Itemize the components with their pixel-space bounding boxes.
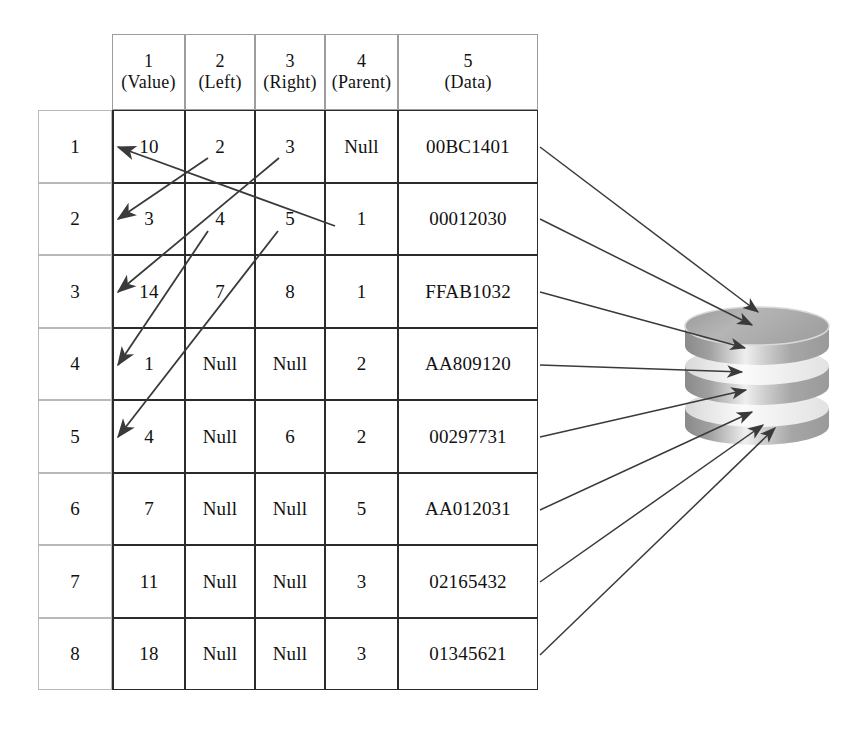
cell-text: AA012031: [425, 498, 511, 520]
row-index-label: 8: [70, 643, 80, 665]
cell-text: Null: [203, 643, 238, 665]
cell-parent: Null: [325, 110, 398, 183]
row-index-label: 4: [70, 353, 80, 375]
cell-right: Null: [255, 545, 325, 618]
row-index-label: 1: [70, 136, 80, 158]
cell-left: Null: [185, 473, 255, 545]
row-index-label: 7: [70, 571, 80, 593]
cell-right: Null: [255, 618, 325, 690]
cell-parent: 2: [325, 400, 398, 473]
cell-left: Null: [185, 545, 255, 618]
cell-text: 7: [215, 281, 225, 303]
cell-text: 10: [139, 136, 158, 158]
cell-text: 3: [357, 643, 367, 665]
column-header-1: 1 (Value): [112, 34, 185, 110]
row-index: 8: [38, 618, 112, 690]
column-header-3: 3 (Right): [255, 34, 325, 110]
cell-text: 1: [357, 208, 367, 230]
cell-text: 2: [357, 353, 367, 375]
cell-data: 00297731: [398, 400, 538, 473]
cell-text: 3: [285, 136, 295, 158]
cell-parent: 3: [325, 545, 398, 618]
cell-text: 1: [144, 353, 154, 375]
cell-text: Null: [203, 353, 238, 375]
column-header-number: 2: [215, 51, 224, 72]
row-index: 2: [38, 183, 112, 255]
cell-text: 01345621: [429, 643, 507, 665]
cell-text: Null: [203, 498, 238, 520]
cell-text: 3: [357, 571, 367, 593]
cell-left: 4: [185, 183, 255, 255]
cell-text: 3: [144, 208, 154, 230]
column-header-2: 2 (Left): [185, 34, 255, 110]
cell-text: 7: [144, 498, 154, 520]
column-header-name: (Data): [444, 72, 491, 93]
column-header-4: 4 (Parent): [325, 34, 398, 110]
cell-right: 6: [255, 400, 325, 473]
cell-text: 00BC1401: [426, 136, 510, 158]
column-header-name: (Left): [198, 72, 241, 93]
cell-text: Null: [344, 136, 379, 158]
database-cylinder-icon: [683, 306, 831, 446]
row-index: 3: [38, 255, 112, 328]
column-header-number: 1: [144, 51, 153, 72]
cell-text: 2: [357, 426, 367, 448]
cell-value: 14: [112, 255, 185, 328]
cell-value: 11: [112, 545, 185, 618]
row-index: 7: [38, 545, 112, 618]
cell-text: 00012030: [429, 208, 507, 230]
cell-text: 00297731: [429, 426, 507, 448]
cell-right: 3: [255, 110, 325, 183]
cell-value: 4: [112, 400, 185, 473]
row-index-label: 5: [70, 426, 80, 448]
row-index: 6: [38, 473, 112, 545]
cell-text: Null: [203, 426, 238, 448]
storage-arrow-row-8: [540, 428, 775, 655]
cell-text: 8: [285, 281, 295, 303]
cell-text: 5: [285, 208, 295, 230]
cell-text: 02165432: [429, 571, 507, 593]
cell-data: AA012031: [398, 473, 538, 545]
cell-left: 2: [185, 110, 255, 183]
column-header-number: 3: [285, 51, 294, 72]
cell-text: 4: [215, 208, 225, 230]
cell-text: 5: [357, 498, 367, 520]
db-disk-top: [685, 307, 829, 365]
cell-value: 18: [112, 618, 185, 690]
cell-right: 5: [255, 183, 325, 255]
cell-text: Null: [273, 498, 308, 520]
storage-arrow-row-1: [540, 147, 758, 312]
cell-right: Null: [255, 473, 325, 545]
cell-parent: 3: [325, 618, 398, 690]
row-index-label: 6: [70, 498, 80, 520]
cell-data: 02165432: [398, 545, 538, 618]
row-index: 1: [38, 110, 112, 183]
column-header-name: (Parent): [332, 72, 392, 93]
cell-left: 7: [185, 255, 255, 328]
cell-data: AA809120: [398, 328, 538, 400]
cell-parent: 2: [325, 328, 398, 400]
cell-parent: 1: [325, 255, 398, 328]
cell-text: Null: [273, 571, 308, 593]
row-index: 4: [38, 328, 112, 400]
cell-parent: 1: [325, 183, 398, 255]
cell-text: Null: [273, 643, 308, 665]
cell-data: 00BC1401: [398, 110, 538, 183]
cell-text: Null: [273, 353, 308, 375]
cell-parent: 5: [325, 473, 398, 545]
cell-data: 00012030: [398, 183, 538, 255]
cell-left: Null: [185, 328, 255, 400]
column-header-number: 4: [357, 51, 366, 72]
cell-left: Null: [185, 400, 255, 473]
cell-text: AA809120: [425, 353, 511, 375]
column-header-5: 5 (Data): [398, 34, 538, 110]
column-header-number: 5: [463, 51, 472, 72]
cell-right: Null: [255, 328, 325, 400]
cell-text: 14: [139, 281, 158, 303]
cell-text: 11: [140, 571, 159, 593]
cell-value: 10: [112, 110, 185, 183]
row-index: 5: [38, 400, 112, 473]
diagram-canvas: 1 (Value) 2 (Left) 3 (Right) 4 (Parent) …: [0, 0, 867, 734]
cell-left: Null: [185, 618, 255, 690]
column-header-name: (Right): [263, 72, 316, 93]
